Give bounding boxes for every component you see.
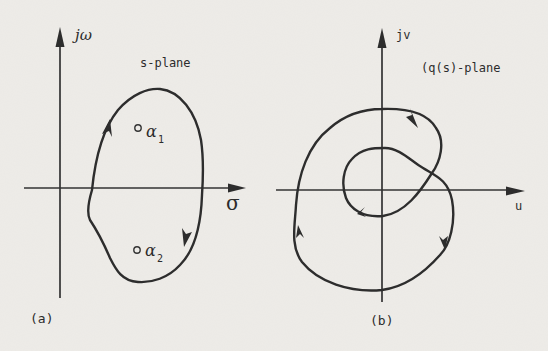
panel-b-caption: (b)	[370, 313, 393, 328]
q-plane-title: (q(s)-plane	[421, 61, 500, 75]
alpha-1-subscript: 1	[158, 134, 164, 145]
alpha-1-symbol: α	[146, 122, 157, 141]
panel-a-caption: (a)	[30, 311, 53, 326]
s-plane-title: s-plane	[140, 56, 191, 70]
q-plane-imaginary-axis-label: jv	[396, 28, 410, 42]
s-plane-imaginary-axis-label: jω	[72, 26, 92, 44]
alpha-2-subscript: 2	[157, 253, 163, 264]
s-plane-real-axis-label: σ	[226, 191, 240, 215]
contour-mapping-figure: jω σ s-plane α 1 α 2 (a) jv u (q(s)-plan…	[0, 0, 548, 351]
q-plane-real-axis-label: u	[515, 199, 522, 213]
paper-texture	[0, 0, 548, 351]
alpha-2-symbol: α	[145, 241, 156, 260]
